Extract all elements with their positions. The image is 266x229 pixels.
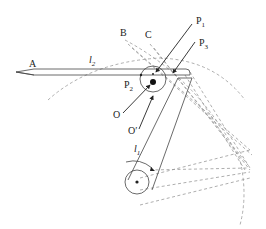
label-l2: l2	[89, 54, 96, 68]
arrow-p3	[173, 42, 195, 73]
ghost-arm-3	[140, 178, 250, 205]
arc-outer	[125, 40, 244, 225]
label-c: C	[145, 29, 152, 40]
arrow-p1	[156, 24, 192, 72]
ghost-arm-2	[140, 172, 250, 190]
joint-o-center	[150, 79, 156, 85]
label-o: O	[113, 109, 120, 120]
linkage-diagram: A B C P1 P3 P2 O O′ l2 l1	[0, 0, 266, 229]
label-b: B	[120, 27, 127, 38]
labels: A B C P1 P3 P2 O O′ l2 l1	[29, 15, 209, 157]
label-o-prime: O′	[128, 125, 137, 136]
ghost-arm-1	[140, 150, 250, 178]
label-l1: l1	[134, 143, 140, 157]
label-p1: P1	[196, 15, 206, 29]
ghost-b-2	[132, 48, 252, 155]
point-p2-dot	[140, 74, 142, 76]
diagram-canvas: A B C P1 P3 P2 O O′ l2 l1	[0, 0, 266, 229]
arc-l2-path	[48, 58, 245, 100]
label-p3: P3	[199, 37, 209, 51]
link-l1	[125, 78, 192, 194]
ghost-d-2	[190, 72, 250, 168]
base-joint-center	[135, 180, 138, 183]
angle-arc-l1	[126, 161, 152, 168]
label-p2: P2	[124, 79, 134, 93]
label-a: A	[29, 58, 37, 69]
dashed-motion-paths	[48, 40, 252, 225]
ghost-arm-4	[150, 168, 248, 170]
arrow-o-prime	[139, 96, 153, 129]
ghost-b-1	[128, 44, 250, 150]
joint-o	[140, 66, 166, 92]
force-arrows	[123, 24, 195, 129]
